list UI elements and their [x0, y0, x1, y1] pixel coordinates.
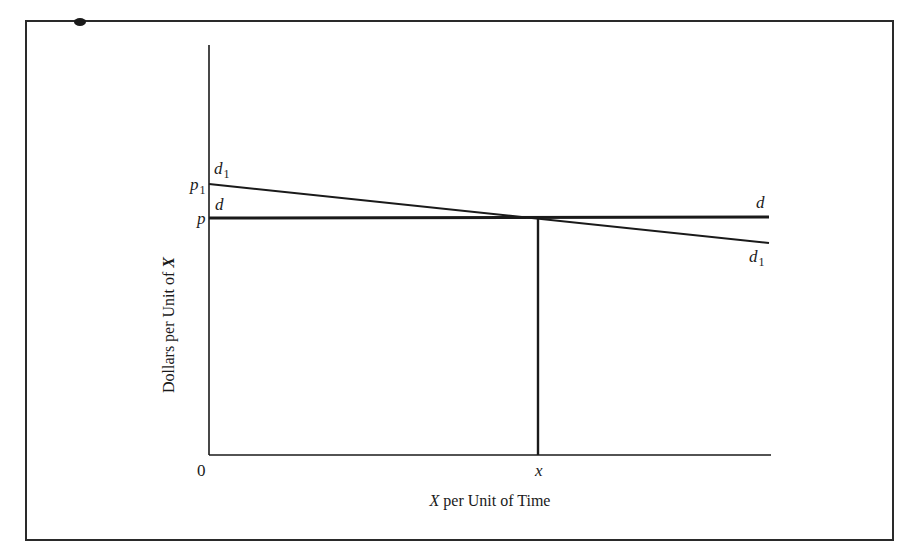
origin-label: 0 — [197, 462, 206, 479]
demand-curve-d1 — [209, 184, 769, 243]
curve-label-d1-right-base: d — [749, 247, 758, 266]
demand-diagram — [0, 0, 909, 557]
y-axis-title-variable: X — [160, 257, 177, 268]
curve-label-d-left: d — [215, 196, 224, 213]
curve-label-d1-right: d1 — [749, 248, 765, 265]
curve-label-d1-left: d1 — [214, 160, 230, 177]
y-tick-p1-subscript: 1 — [200, 183, 206, 197]
y-tick-p1-base: p — [190, 175, 199, 194]
x-axis-title: X per Unit of Time — [430, 492, 551, 510]
curve-label-d-right: d — [756, 194, 765, 211]
curve-label-d1-left-base: d — [214, 159, 223, 178]
y-tick-p: p — [197, 210, 206, 227]
x-tick-x: x — [535, 462, 543, 479]
curve-label-d1-left-subscript: 1 — [224, 167, 230, 181]
x-axis-title-text: per Unit of Time — [439, 492, 550, 509]
demand-curve-d — [209, 217, 769, 218]
x-axis-title-variable: X — [430, 492, 440, 509]
y-axis-title-text: Dollars per Unit of — [160, 268, 177, 393]
y-tick-p1: p1 — [190, 176, 206, 193]
curve-label-d1-right-subscript: 1 — [759, 255, 765, 269]
y-axis-title: Dollars per Unit of X — [160, 257, 178, 393]
